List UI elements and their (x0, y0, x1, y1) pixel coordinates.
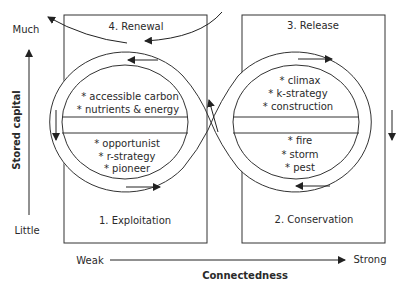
x-axis-title: Connectedness (202, 270, 288, 281)
y-axis-low-label: Little (14, 225, 39, 236)
right-lower-item: * fire (288, 135, 313, 146)
right-lower-item: * pest (285, 162, 315, 173)
left-lower-item: * r-strategy (99, 151, 156, 162)
phase-label-release: 3. Release (287, 20, 339, 31)
left-upper-item: * accessible carbon (81, 91, 179, 102)
x-axis-high-label: Strong (354, 254, 387, 265)
right-upper-item: * climax (279, 75, 320, 86)
y-axis-high-label: Much (13, 24, 40, 35)
phase-label-renewal: 4. Renewal (109, 21, 164, 32)
left-lower-item: * opportunist (94, 138, 160, 149)
phase-label-conservation: 2. Conservation (275, 214, 354, 225)
right-upper-item: * k-strategy (268, 88, 327, 99)
x-axis-low-label: Weak (76, 255, 104, 266)
phase-label-exploitation: 1. Exploitation (99, 215, 171, 226)
adaptive-cycle-diagram: 4. Renewal 3. Release 1. Exploitation 2.… (0, 0, 410, 286)
left-lower-item: * pioneer (104, 163, 151, 174)
right-upper-item: * construction (263, 101, 333, 112)
left-upper-item: * nutrients & energy (77, 104, 179, 115)
right-lower-item: * storm (281, 149, 318, 160)
y-axis-title: Stored capital (11, 90, 22, 169)
